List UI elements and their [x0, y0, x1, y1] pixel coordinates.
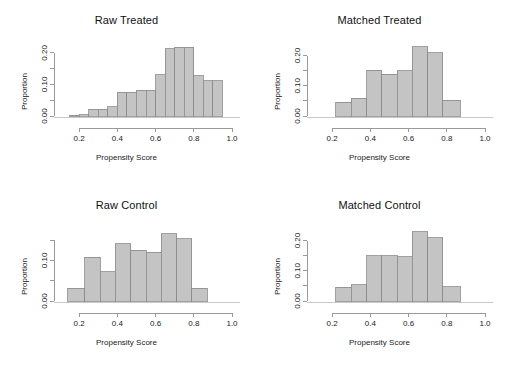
- histogram-bar: [336, 287, 351, 301]
- x-axis-tick-label: 0.4: [365, 319, 377, 328]
- y-axis-tick-label: 0.20: [293, 47, 302, 63]
- histogram-bar: [382, 256, 397, 301]
- x-axis-tick-label: 0.2: [74, 134, 86, 143]
- histogram-bar: [117, 92, 127, 116]
- y-axis-tick-label: 0.10: [293, 77, 302, 93]
- histogram-bar: [351, 98, 366, 116]
- x-axis-tick-label: 0.6: [150, 319, 162, 328]
- histogram-bar: [156, 75, 166, 116]
- histogram-bar: [184, 47, 194, 116]
- histogram-bar: [367, 256, 382, 301]
- y-axis-tick-label: 0.00: [293, 108, 302, 124]
- x-axis-tick-label: 1.0: [226, 134, 238, 143]
- y-axis-tick-label: 0.00: [40, 108, 49, 124]
- x-axis-tick-label: 0.6: [403, 134, 415, 143]
- x-axis-tick-label: 1.0: [479, 134, 491, 143]
- histogram-bar: [146, 252, 161, 301]
- x-axis-label: Propensity Score: [253, 338, 506, 347]
- histogram-bar: [165, 49, 175, 116]
- y-axis-tick-label: 0.10: [40, 252, 49, 268]
- x-axis-tick-label: 1.0: [226, 319, 238, 328]
- panel-raw-treated: Raw Treated 0.000.100.200.20.40.60.81.0 …: [0, 0, 253, 184]
- histogram-bar: [131, 250, 146, 301]
- histogram-bar: [203, 81, 213, 116]
- histogram-bar: [443, 287, 460, 302]
- x-axis-tick-label: 0.8: [188, 319, 200, 328]
- y-axis-label: Proportion: [20, 73, 29, 110]
- histogram-bar: [367, 70, 382, 116]
- y-axis-tick-label: 0.10: [293, 262, 302, 278]
- histogram-bar: [397, 257, 412, 301]
- histogram-bar: [85, 257, 100, 301]
- histogram-bar: [146, 90, 156, 116]
- y-axis-tick-label: 0.00: [40, 293, 49, 309]
- y-axis-label: Proportion: [273, 258, 282, 295]
- panel-raw-control: Raw Control 0.000.100.20.40.60.81.0 Prop…: [0, 185, 253, 369]
- y-axis-tick-label: 0.20: [40, 45, 49, 61]
- histogram-bar: [177, 239, 192, 301]
- histogram-bar: [161, 234, 176, 301]
- histogram-bar: [127, 92, 137, 116]
- histogram-bar: [382, 74, 397, 116]
- histogram-bar: [194, 76, 204, 116]
- x-axis-tick-label: 0.6: [150, 134, 162, 143]
- x-axis-tick-label: 0.2: [327, 134, 339, 143]
- histogram-bar: [70, 115, 80, 116]
- x-axis-tick-label: 0.8: [188, 134, 200, 143]
- x-axis-label: Propensity Score: [0, 338, 253, 347]
- y-axis-tick-label: 0.20: [293, 232, 302, 248]
- histogram-bar: [98, 109, 108, 116]
- histogram-bar: [136, 90, 146, 116]
- y-axis-tick-label: 0.00: [293, 293, 302, 309]
- histogram-bar: [443, 100, 460, 116]
- x-axis-tick-label: 0.6: [403, 319, 415, 328]
- x-axis-tick-label: 0.4: [112, 134, 124, 143]
- x-axis-tick-label: 0.4: [112, 319, 124, 328]
- histogram-bar: [100, 272, 115, 301]
- histogram-bar: [412, 47, 427, 116]
- histogram-bar: [175, 47, 185, 116]
- panel-matched-control: Matched Control 0.000.100.200.20.40.60.8…: [253, 185, 506, 369]
- histogram-bar: [68, 288, 85, 301]
- histogram-bar: [428, 238, 443, 301]
- histogram-bar: [412, 232, 427, 301]
- histogram-bar: [115, 244, 130, 301]
- x-axis-tick-label: 0.4: [365, 134, 377, 143]
- x-axis-label: Propensity Score: [0, 153, 253, 162]
- y-axis-label: Proportion: [20, 258, 29, 295]
- histogram-bar: [79, 115, 89, 116]
- x-axis-tick-label: 1.0: [479, 319, 491, 328]
- histogram-bar: [192, 288, 207, 301]
- y-axis-label: Proportion: [273, 73, 282, 110]
- histogram-bar: [336, 102, 351, 116]
- x-axis-tick-label: 0.8: [441, 134, 453, 143]
- panel-matched-treated: Matched Treated 0.000.100.200.20.40.60.8…: [253, 0, 506, 184]
- histogram-bar: [89, 109, 99, 116]
- x-axis-label: Propensity Score: [253, 153, 506, 162]
- y-axis-tick-label: 0.10: [40, 76, 49, 92]
- x-axis-tick-label: 0.2: [74, 319, 86, 328]
- histogram-bar: [351, 285, 366, 301]
- histogram-bar: [108, 107, 118, 116]
- histogram-bar: [397, 71, 412, 116]
- x-axis-tick-label: 0.2: [327, 319, 339, 328]
- histogram-bar: [428, 53, 443, 116]
- histogram-bar: [213, 81, 223, 116]
- x-axis-tick-label: 0.8: [441, 319, 453, 328]
- figure-panel-grid: Raw Treated 0.000.100.200.20.40.60.81.0 …: [0, 0, 506, 369]
